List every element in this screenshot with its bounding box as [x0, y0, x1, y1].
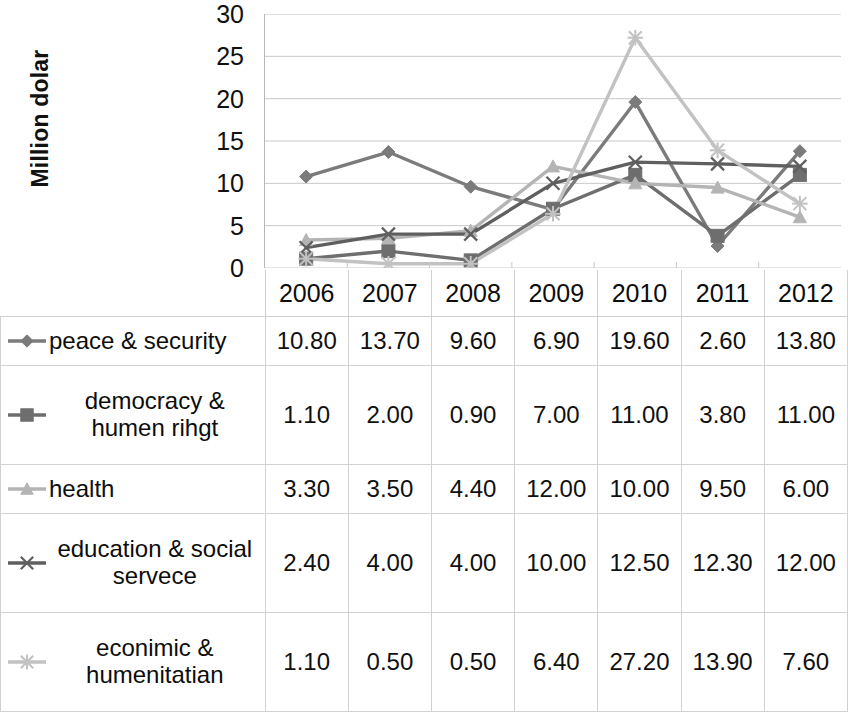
y-axis-tick: 10	[216, 171, 244, 196]
table-row: peace & security10.8013.709.606.9019.602…	[1, 317, 848, 366]
year-header-cell: 2012	[764, 270, 847, 317]
data-cell: 0.50	[431, 613, 514, 712]
y-axis-tick: 25	[216, 44, 244, 69]
legend-label: health	[49, 476, 261, 503]
data-cell: 13.80	[764, 317, 847, 366]
y-axis-tick: 5	[230, 213, 244, 238]
cross-marker-icon	[7, 552, 47, 574]
data-cell: 0.50	[348, 613, 431, 712]
data-cell: 19.60	[598, 317, 681, 366]
legend-label: education & social servece	[49, 536, 261, 590]
y-axis-tick-labels: 302520151050	[190, 0, 252, 280]
diamond-marker	[464, 180, 477, 193]
square-marker-icon	[7, 404, 47, 426]
data-cell: 27.20	[598, 613, 681, 712]
data-cell: 1.10	[265, 613, 348, 712]
legend-cell-0[interactable]: peace & security	[1, 317, 266, 366]
plot-area	[264, 14, 840, 268]
legend-label: econimic & humenitatian	[49, 635, 261, 689]
diamond-marker	[382, 146, 395, 159]
star-marker	[20, 655, 35, 670]
data-cell: 10.00	[515, 514, 598, 613]
line-chart-canvas	[265, 14, 841, 268]
data-cell: 12.50	[598, 514, 681, 613]
star-marker	[298, 251, 314, 267]
data-cell: 7.00	[515, 366, 598, 465]
y-axis-title: Million dolar	[27, 19, 54, 219]
legend-label: peace & security	[49, 328, 261, 355]
star-marker	[627, 30, 643, 46]
header-corner-cell	[1, 270, 266, 317]
data-cell: 6.40	[515, 613, 598, 712]
data-cell: 4.00	[348, 514, 431, 613]
data-cell: 3.50	[348, 465, 431, 514]
square-marker	[382, 245, 395, 258]
star-marker	[710, 143, 726, 159]
data-cell: 7.60	[764, 613, 847, 712]
table-header-row: 2006200720082009201020112012	[1, 270, 848, 317]
square-marker	[711, 229, 724, 242]
data-cell: 2.60	[681, 317, 764, 366]
year-header-cell: 2011	[681, 270, 764, 317]
data-cell: 13.90	[681, 613, 764, 712]
y-axis-tick: 20	[216, 86, 244, 111]
table-row: education & social servece2.404.004.0010…	[1, 514, 848, 613]
legend-cell-2[interactable]: health	[1, 465, 266, 514]
data-cell: 11.00	[598, 366, 681, 465]
data-cell: 2.00	[348, 366, 431, 465]
year-header-cell: 2009	[515, 270, 598, 317]
data-cell: 12.00	[515, 465, 598, 514]
data-cell: 4.00	[431, 514, 514, 613]
star-marker	[792, 196, 808, 212]
data-cell: 12.30	[681, 514, 764, 613]
legend-label: democracy & humen rihgt	[49, 388, 261, 442]
year-header-cell: 2010	[598, 270, 681, 317]
data-cell: 1.10	[265, 366, 348, 465]
year-header-cell: 2006	[265, 270, 348, 317]
diamond-marker	[21, 335, 33, 347]
data-cell: 11.00	[764, 366, 847, 465]
data-cell: 10.80	[265, 317, 348, 366]
diamond-marker-icon	[7, 330, 47, 352]
star-marker	[545, 206, 561, 222]
series-line-0	[306, 102, 800, 246]
table-row: democracy & humen rihgt1.102.000.907.001…	[1, 366, 848, 465]
triangle-marker-icon	[7, 478, 47, 500]
square-marker	[21, 409, 33, 421]
data-cell: 9.60	[431, 317, 514, 366]
data-cell: 6.90	[515, 317, 598, 366]
legend-cell-1[interactable]: democracy & humen rihgt	[1, 366, 266, 465]
table-row: health3.303.504.4012.0010.009.506.00	[1, 465, 848, 514]
data-cell: 12.00	[764, 514, 847, 613]
data-cell: 2.40	[265, 514, 348, 613]
table-row: econimic & humenitatian1.100.500.506.402…	[1, 613, 848, 712]
year-header-cell: 2008	[431, 270, 514, 317]
data-cell: 9.50	[681, 465, 764, 514]
data-cell: 6.00	[764, 465, 847, 514]
y-axis-tick: 15	[216, 129, 244, 154]
legend-cell-4[interactable]: econimic & humenitatian	[1, 613, 266, 712]
star-marker-icon	[7, 651, 47, 673]
data-cell: 3.30	[265, 465, 348, 514]
diamond-marker	[300, 170, 313, 183]
data-cell: 0.90	[431, 366, 514, 465]
data-cell: 10.00	[598, 465, 681, 514]
chart-data-table: 2006200720082009201020112012peace & secu…	[0, 270, 848, 712]
data-cell: 4.40	[431, 465, 514, 514]
data-cell: 13.70	[348, 317, 431, 366]
data-cell: 3.80	[681, 366, 764, 465]
legend-cell-3[interactable]: education & social servece	[1, 514, 266, 613]
y-axis-tick: 30	[216, 2, 244, 27]
year-header-cell: 2007	[348, 270, 431, 317]
